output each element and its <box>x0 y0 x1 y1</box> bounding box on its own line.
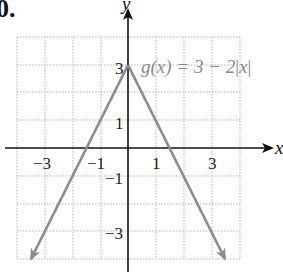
y-axis-label: y <box>122 0 130 13</box>
y-tick-label: −1 <box>105 170 123 187</box>
function-label: g(x) = 3 − 2|x| <box>141 57 251 76</box>
x-axis-label: x <box>275 138 283 157</box>
x-tick-label: 1 <box>152 155 161 172</box>
plot-canvas <box>0 0 283 277</box>
graph-figure: 0. <box>0 0 283 277</box>
y-tick-label: 1 <box>115 115 124 132</box>
x-tick-label: 3 <box>208 155 217 172</box>
y-tick-label: 3 <box>115 60 124 77</box>
function-label-prefix: g(x) = 3 − 2 <box>141 56 235 77</box>
y-tick-label: −3 <box>105 225 123 242</box>
abs-bar-right: | <box>247 56 251 77</box>
x-tick-label: −1 <box>87 155 105 172</box>
x-tick-label: −3 <box>33 155 51 172</box>
